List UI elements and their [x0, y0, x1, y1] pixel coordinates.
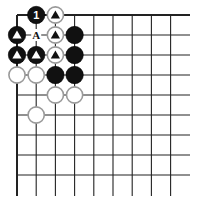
black-stone	[66, 66, 83, 83]
black-stone: 1	[28, 6, 45, 23]
white-stone	[28, 107, 44, 123]
white-stone	[47, 27, 63, 43]
black-stone	[47, 66, 64, 83]
white-stone	[9, 67, 25, 83]
board-labels: A	[31, 29, 41, 41]
go-board-diagram: A 1	[0, 0, 197, 210]
move-number: 1	[33, 9, 39, 21]
white-stone	[67, 87, 83, 103]
white-stone	[47, 47, 63, 63]
board-grid	[17, 15, 190, 196]
white-stone	[47, 7, 63, 23]
white-stone	[28, 67, 44, 83]
black-stone	[28, 46, 45, 63]
white-stone	[47, 87, 63, 103]
point-label: A	[32, 29, 40, 41]
black-stone	[66, 26, 83, 43]
stones-layer: 1	[8, 6, 83, 123]
black-stone	[66, 46, 83, 63]
black-stone	[8, 46, 25, 63]
black-stone	[8, 26, 25, 43]
